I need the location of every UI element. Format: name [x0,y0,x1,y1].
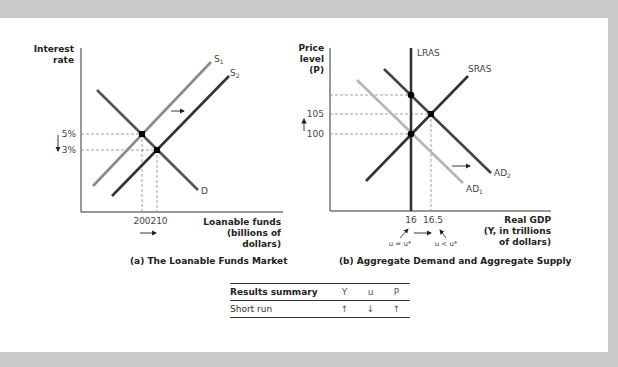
s2-label: S2 [230,68,240,79]
table-header-row: Results summary Y u P [230,284,410,301]
x-axis-label: Loanable funds [203,217,281,227]
y-axis-label-2: rate [53,55,74,65]
pointer-16-arrow-icon [400,229,408,238]
d-label: D [201,186,208,196]
demand-curve [97,90,198,190]
x-axis-label-3: dollars) [242,239,281,249]
ad2-label: AD2 [494,168,511,179]
x-tick-210: 210 [150,216,167,226]
y-tick-3pct: 3% [62,145,77,155]
u-less-ustar-note: u < u* [435,240,458,248]
ad-as-chart: Price level (P) Real GDP (Y, in trillion… [298,43,551,248]
initial-point [408,131,415,138]
y-axis-label-3: (P) [309,65,324,75]
p-up-arrow-icon: ↑ [384,301,410,318]
col-y: Y [332,284,358,301]
equilibrium-point-2 [154,147,160,153]
table-title: Results summary [230,284,332,301]
pointer-16-5-arrow-icon [440,230,446,238]
x-tick-200: 200 [133,216,150,226]
x-tick-16: 16 [405,215,417,225]
ad1-label: AD1 [466,184,483,195]
caption-a: (a) The Loanable Funds Market [130,256,288,266]
short-run-point [428,111,434,117]
sras-label: SRAS [468,64,492,74]
u-equals-ustar-note: u = u* [389,240,412,248]
x-axis-label-2: (billions of [227,228,281,238]
y-axis-label-2: level [300,54,324,64]
u-down-arrow-icon: ↓ [358,301,384,318]
loanable-funds-chart: Interest rate Loanable funds (billions o… [34,44,283,249]
col-p: P [384,284,410,301]
equilibrium-point-1 [139,131,145,137]
supply-curve-s2 [112,76,229,196]
sras-curve [366,76,468,181]
caption-b: (b) Aggregate Demand and Aggregate Suppl… [339,256,572,266]
s1-label: S1 [214,54,224,65]
y-tick-5pct: 5% [62,129,77,139]
y-up-arrow-icon: ↑ [332,301,358,318]
y-tick-105: 105 [307,109,324,119]
supply-curve-s1 [93,62,211,186]
col-u: u [358,284,384,301]
x-axis-label: Real GDP [504,215,551,225]
x-axis-label-3: of dollars) [499,237,551,247]
long-run-point [408,92,415,99]
x-axis-label-2: (Y, in trillions [484,226,551,236]
table-row: Short run ↑ ↓ ↑ [230,301,410,318]
y-tick-100: 100 [307,129,324,139]
results-summary-table: Results summary Y u P Short run ↑ ↓ ↑ [230,283,410,318]
x-tick-16-5: 16.5 [423,215,443,225]
y-axis-label: Interest [34,44,75,54]
lras-label: LRAS [417,48,440,58]
y-axis-label: Price [298,43,324,53]
row-label: Short run [230,301,332,318]
